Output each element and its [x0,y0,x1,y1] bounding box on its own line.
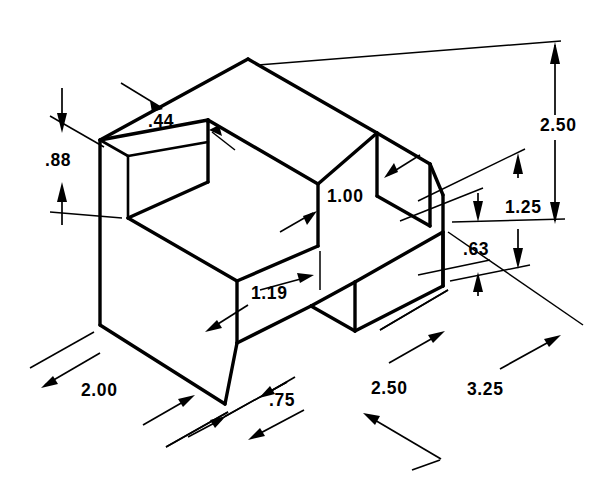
dim-325-ext-right [448,232,583,325]
dimension-63: .63 [400,188,490,296]
dim-250b-label: 2.50 [371,378,407,398]
dimension-44: .44 [121,83,235,150]
dim-325-label: 3.25 [467,379,503,399]
dim-119-arrowhead-upper [297,273,314,283]
dimension-250-bottom: 2.50 [224,290,448,440]
dim-250r-arrowhead-upper [550,42,560,64]
edge-pocket-inner-top-left [100,140,128,156]
dim-250r-label: 2.50 [540,115,576,135]
dim-119-label: 1.19 [251,283,287,303]
edge-bottom-notch-right-slope [355,286,443,331]
dim-119-arrowhead-right [303,211,317,225]
dim-325-arrowhead-left [363,413,380,425]
edge-pocket-top-right [208,120,318,184]
dim-63-arrowhead-upper [473,201,483,222]
edge-boss-front-slope [377,196,430,226]
dim-63-label: .63 [463,239,489,259]
dim-250r-ext-bottom [452,219,565,222]
dimension-325: 3.25 [363,232,583,470]
dim-119-arrowhead-left [205,320,222,332]
dim-88-ext-top [50,116,104,147]
dim-100-label: 1.00 [327,186,363,206]
dim-325-ext-left [380,290,448,330]
edge-bottom-notch-rear-slope [355,232,443,282]
dim-88-label: .88 [45,150,71,170]
dim-250b-arrowhead-right [428,331,445,343]
edge-bottom-notch-upper-slope [311,282,355,306]
edge-bottom-left-slope [100,325,225,404]
dim-75-ext-left [166,412,228,447]
dim-88-arrowhead-upper [57,113,67,133]
dimension-125: 1.25 [418,149,541,281]
dim-75-label: .75 [269,390,295,410]
edge-pocket-inner-rim-left [128,142,208,156]
dim-250r-arrowhead-lower [550,202,560,224]
dim-125-arrowhead-lower [513,248,523,269]
dim-88-ext-bottom [50,212,122,218]
dim-44-label: .44 [148,111,174,131]
edge-pocket-floor-left [128,182,208,218]
dim-250b-arrowhead-left [248,428,265,440]
dim-200-arrowhead-left [41,376,58,388]
edge-pocket-floor-front [128,218,237,281]
dim-200-arrowhead-right [178,395,195,407]
isometric-drawing-canvas: .44 .88 1.00 1. [0,0,608,503]
dim-250r-ext-top [258,41,561,65]
drawing-page: .44 .88 1.00 1. [0,0,608,503]
dim-125-arrowhead-upper [513,153,523,174]
dim-200-label: 2.00 [81,380,117,400]
edge-boss-rear-slope [377,133,430,164]
edge-pocket-top-right-to-rim [318,133,377,184]
dim-100-arrowhead [384,163,398,178]
dimension-88: .88 [45,88,122,225]
edge-bottom-notch-left-slope [225,343,237,404]
dimension-200: 2.00 [30,332,228,447]
edge-bottom-notch-floor-left [237,306,311,343]
edge-bottom-notch-lower-slope [311,306,355,331]
dim-325-arrowhead-right [544,335,561,347]
dim-88-arrowhead-lower [57,182,67,202]
dim-325-line-left-b [368,416,441,459]
dim-44-leader [121,83,162,108]
dim-63-ext-bottom [418,260,490,275]
edge-top-rear-right [248,59,377,133]
dim-325-line-left [412,460,440,470]
dim-125-label: 1.25 [505,197,541,217]
